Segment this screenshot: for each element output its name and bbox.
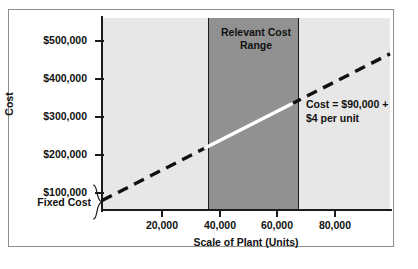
cost-line-solid-relevant-range: [204, 103, 293, 148]
figure-frame: $500,000 $400,000 $300,000 $200,000 $100…: [8, 9, 394, 247]
cost-line-dashed-right: [291, 54, 390, 104]
cost-line-chart: [9, 10, 395, 248]
cost-line-dashed-left: [102, 148, 206, 201]
